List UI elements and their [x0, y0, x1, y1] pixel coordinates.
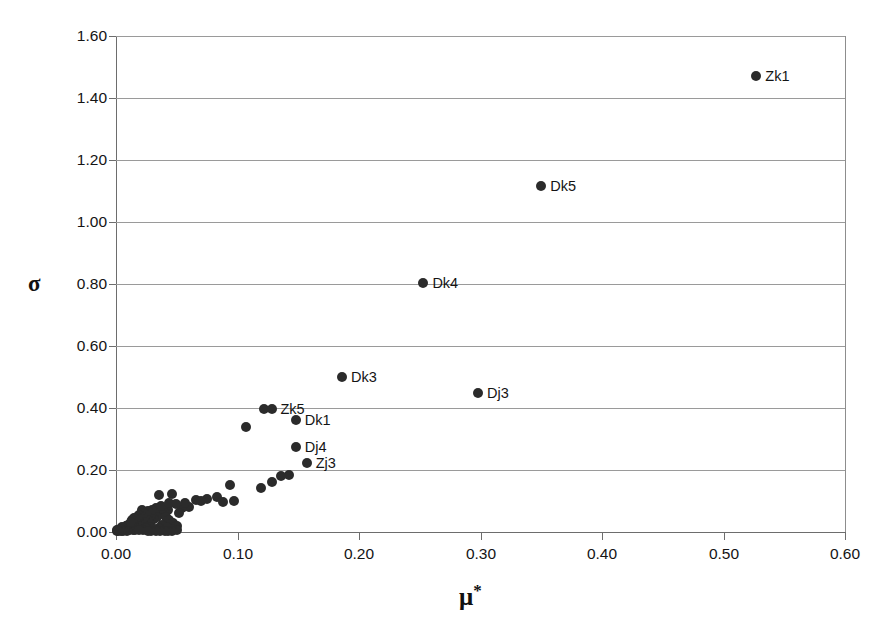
data-point-label-dk1: Dk1 [305, 413, 331, 428]
data-point [256, 483, 266, 493]
gridline [116, 98, 845, 99]
x-tick-mark [724, 532, 725, 540]
y-tick-mark [109, 160, 116, 161]
gridline [116, 36, 845, 37]
x-tick-label: 0.20 [324, 546, 394, 562]
x-tick-label: 0.00 [81, 546, 151, 562]
y-tick-mark [109, 98, 116, 99]
data-point-label-dk4: Dk4 [432, 276, 458, 291]
y-tick-label: 1.20 [53, 152, 107, 168]
x-axis-title-star: * [473, 581, 482, 600]
y-tick-label: 0.40 [53, 400, 107, 416]
gridline [116, 284, 845, 285]
data-point-dk4 [418, 278, 428, 288]
y-axis-title: σ [28, 272, 41, 295]
gridline [116, 408, 845, 409]
data-point-label-zj3: Zj3 [316, 456, 336, 471]
data-point-label-zk5: Zk5 [281, 402, 305, 417]
gridline [116, 222, 845, 223]
data-point-label-dj4: Dj4 [305, 440, 327, 455]
data-point-label-dk5: Dk5 [550, 179, 576, 194]
x-tick-label: 0.40 [567, 546, 637, 562]
x-tick-mark [359, 532, 360, 540]
data-point-label-zk1: Zk1 [765, 69, 789, 84]
data-point-dj3 [473, 388, 483, 398]
data-point [174, 508, 184, 518]
data-point-zk5 [267, 404, 277, 414]
x-tick-label: 0.10 [203, 546, 273, 562]
y-tick-mark [109, 222, 116, 223]
data-point-dk3 [337, 372, 347, 382]
y-tick-label: 0.80 [53, 276, 107, 292]
data-point [154, 490, 164, 500]
data-point-zk1 [751, 71, 761, 81]
data-point [143, 526, 153, 536]
data-point-zj3 [302, 458, 312, 468]
data-point-dk1 [291, 415, 301, 425]
x-tick-mark [238, 532, 239, 540]
y-tick-label: 0.60 [53, 338, 107, 354]
data-point [284, 470, 294, 480]
y-tick-label: 1.00 [53, 214, 107, 230]
y-tick-mark [109, 408, 116, 409]
y-tick-mark [109, 36, 116, 37]
data-point [241, 422, 251, 432]
data-point [180, 498, 190, 508]
y-tick-mark [109, 470, 116, 471]
scatter-plot-figure: 0.000.200.400.600.801.001.201.401.60 0.0… [0, 0, 894, 632]
data-point-dj4 [291, 442, 301, 452]
data-point-dk5 [536, 181, 546, 191]
x-tick-mark [481, 532, 482, 540]
y-tick-label: 1.40 [53, 90, 107, 106]
data-point-label-dj3: Dj3 [487, 386, 509, 401]
gridline [116, 160, 845, 161]
data-point [218, 497, 228, 507]
x-tick-label: 0.60 [810, 546, 880, 562]
y-tick-label: 1.60 [53, 28, 107, 44]
data-point-label-dk3: Dk3 [351, 370, 377, 385]
gridline [116, 346, 845, 347]
x-tick-mark [602, 532, 603, 540]
x-axis-title: μ* [459, 582, 482, 609]
y-tick-mark [109, 284, 116, 285]
data-point [229, 496, 239, 506]
gridline [116, 470, 845, 471]
x-tick-label: 0.30 [446, 546, 516, 562]
plot-frame-right-edge [845, 36, 846, 533]
x-tick-mark [845, 532, 846, 540]
data-point [225, 480, 235, 490]
data-point [196, 496, 206, 506]
y-tick-label: 0.20 [53, 462, 107, 478]
data-point [267, 477, 277, 487]
y-tick-label: 0.00 [53, 524, 107, 540]
data-point [126, 517, 136, 527]
x-tick-label: 0.50 [689, 546, 759, 562]
x-axis-title-text: μ [459, 583, 473, 610]
y-tick-mark [109, 346, 116, 347]
